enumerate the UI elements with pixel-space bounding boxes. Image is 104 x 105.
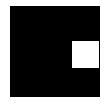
white-square-cutout (72, 41, 99, 68)
black-square (10, 6, 100, 97)
canvas (0, 0, 104, 105)
